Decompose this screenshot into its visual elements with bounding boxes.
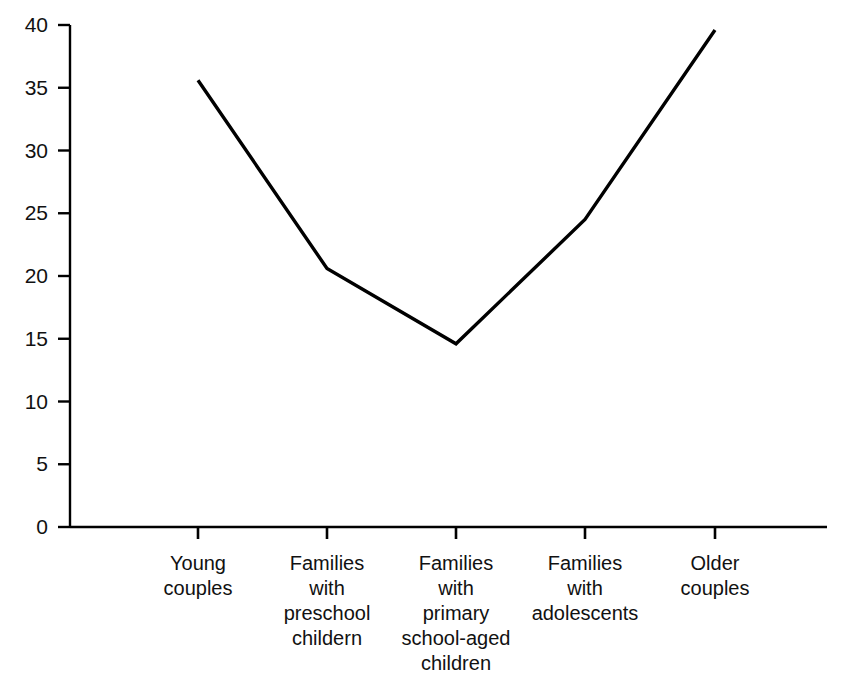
y-axis-ticks xyxy=(58,25,70,527)
data-series-line xyxy=(198,30,715,344)
x-tick-label-line: Older xyxy=(640,551,790,576)
x-tick-label: Familieswithpreschoolchildern xyxy=(252,551,402,651)
x-tick-label-line: children xyxy=(381,651,531,676)
y-tick-label: 35 xyxy=(0,77,48,98)
x-tick-label-line: preschool xyxy=(252,601,402,626)
x-tick-label: Youngcouples xyxy=(123,551,273,601)
x-tick-label-line: Families xyxy=(381,551,531,576)
y-tick-label: 40 xyxy=(0,14,48,35)
x-tick-label-line: with xyxy=(252,576,402,601)
x-axis-ticks xyxy=(198,527,715,539)
y-tick-label: 20 xyxy=(0,265,48,286)
y-tick-label: 15 xyxy=(0,328,48,349)
x-tick-label-line: with xyxy=(381,576,531,601)
y-tick-label: 25 xyxy=(0,202,48,223)
x-tick-label-line: Families xyxy=(252,551,402,576)
x-tick-label: Familieswithprimaryschool-agedchildren xyxy=(381,551,531,676)
x-tick-label-line: with xyxy=(510,576,660,601)
x-tick-label-line: school-aged xyxy=(381,626,531,651)
x-tick-label-line: couples xyxy=(640,576,790,601)
x-tick-label-line: adolescents xyxy=(510,601,660,626)
y-tick-label: 5 xyxy=(0,453,48,474)
x-tick-label-line: primary xyxy=(381,601,531,626)
x-tick-label: Oldercouples xyxy=(640,551,790,601)
y-tick-label: 30 xyxy=(0,140,48,161)
x-tick-label-line: childern xyxy=(252,626,402,651)
x-tick-label-line: couples xyxy=(123,576,273,601)
x-tick-label: Familieswithadolescents xyxy=(510,551,660,626)
line-chart: 0510152025303540 YoungcouplesFamilieswit… xyxy=(0,0,849,682)
x-tick-label-line: Families xyxy=(510,551,660,576)
x-tick-label-line: Young xyxy=(123,551,273,576)
y-tick-label: 10 xyxy=(0,391,48,412)
y-tick-label: 0 xyxy=(0,516,48,537)
